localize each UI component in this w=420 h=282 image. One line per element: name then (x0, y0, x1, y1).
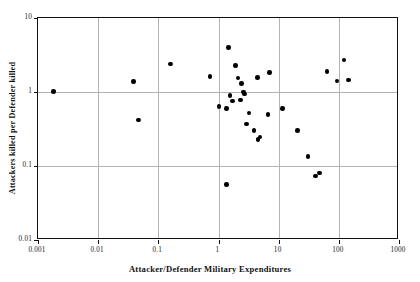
y-gridline (38, 92, 397, 93)
data-point (266, 112, 271, 117)
x-tick-label: 0.1 (153, 246, 163, 254)
data-point (236, 76, 241, 81)
x-tick-label: 1000 (390, 246, 405, 254)
data-point (168, 62, 173, 67)
data-point (244, 122, 249, 127)
data-point (233, 63, 238, 68)
data-point (306, 154, 311, 159)
x-gridline (98, 18, 99, 238)
data-point (51, 89, 56, 94)
x-tick-mark (219, 240, 220, 244)
data-point (239, 81, 244, 86)
x-tick-mark (339, 240, 340, 244)
data-point (317, 171, 322, 176)
y-tick-label: 0.1 (8, 161, 32, 169)
y-gridline (38, 166, 397, 167)
data-point (228, 93, 233, 98)
x-tick-mark (38, 240, 39, 244)
data-point (136, 118, 141, 123)
data-point (224, 182, 229, 187)
data-point (255, 75, 260, 80)
data-point (247, 111, 252, 116)
data-point (295, 128, 300, 133)
data-point (230, 99, 235, 104)
x-gridline (339, 18, 340, 238)
x-axis-title: Attacker/Defender Military Expenditures (0, 264, 420, 274)
data-point (217, 104, 222, 109)
x-tick-label: 1 (216, 246, 220, 254)
y-tick-mark (34, 18, 38, 19)
data-point (346, 78, 351, 83)
x-tick-mark (279, 240, 280, 244)
data-point (224, 106, 229, 111)
x-tick-label: 100 (332, 246, 343, 254)
x-tick-label: 0.01 (90, 246, 103, 254)
scatter-plot-figure: Attackers killed per Defender killed 0.0… (0, 0, 420, 282)
y-tick-mark (34, 240, 38, 241)
data-point (238, 98, 243, 103)
x-gridline (219, 18, 220, 238)
data-point (226, 45, 231, 50)
x-tick-label: 10 (274, 246, 282, 254)
x-tick-mark (158, 240, 159, 244)
data-point (325, 69, 330, 74)
y-tick-label: 0.01 (8, 235, 32, 243)
x-tick-mark (98, 240, 99, 244)
data-point (208, 74, 213, 79)
data-point (252, 128, 257, 133)
x-tick-label: 0.001 (28, 246, 45, 254)
y-tick-mark (34, 166, 38, 167)
plot-area (37, 17, 398, 239)
y-tick-mark (34, 92, 38, 93)
y-tick-label: 10 (8, 13, 32, 21)
x-tick-mark (399, 240, 400, 244)
y-tick-label: 1 (8, 87, 32, 95)
x-gridline (158, 18, 159, 238)
data-point (267, 70, 272, 75)
x-gridline (279, 18, 280, 238)
data-point (258, 135, 263, 140)
y-axis-title: Attackers killed per Defender killed (8, 13, 17, 243)
data-point (242, 92, 247, 97)
data-point (342, 58, 347, 63)
data-point (280, 106, 285, 111)
data-point (131, 79, 136, 84)
